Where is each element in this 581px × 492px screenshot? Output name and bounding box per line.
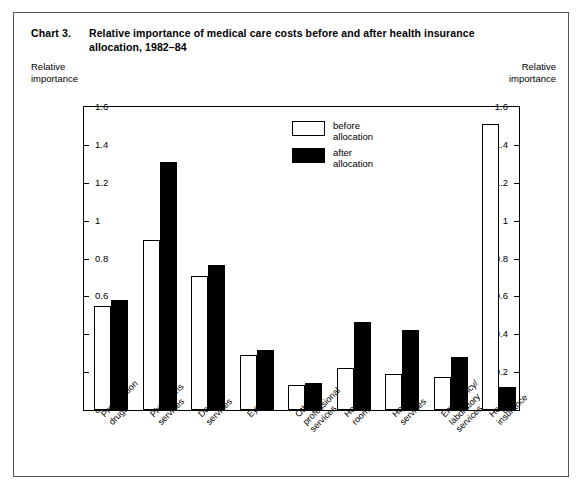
chart-legend: before allocationafter allocation bbox=[292, 121, 373, 175]
chart-panel: Chart 3.Relative importance of medical c… bbox=[13, 12, 569, 477]
bar-after-allocation bbox=[160, 162, 177, 410]
bar-before-allocation bbox=[482, 124, 499, 410]
page-title: Chart 3.Relative importance of medical c… bbox=[31, 26, 551, 54]
bar-after-allocation bbox=[208, 265, 225, 410]
bar-before-allocation bbox=[143, 240, 160, 410]
legend-label: after allocation bbox=[333, 148, 373, 169]
bar-group bbox=[191, 107, 225, 410]
bar-before-allocation bbox=[94, 306, 111, 410]
legend-item: before allocation bbox=[292, 121, 373, 142]
chart-title-text: Relative importance of medical care cost… bbox=[89, 26, 529, 54]
bar-group bbox=[94, 107, 128, 410]
bar-before-allocation bbox=[191, 276, 208, 410]
legend-swatch-before bbox=[292, 121, 325, 136]
left-axis-caption: Relative importance bbox=[31, 61, 78, 84]
legend-item: after allocation bbox=[292, 148, 373, 169]
bar-group bbox=[482, 107, 516, 410]
chart-number: Chart 3. bbox=[31, 26, 89, 40]
bar-group bbox=[240, 107, 274, 410]
legend-swatch-after bbox=[292, 148, 325, 163]
x-axis-category-labels: Prescription drugsPhysicians servicesDen… bbox=[83, 412, 520, 492]
legend-label: before allocation bbox=[333, 121, 373, 142]
bar-group bbox=[434, 107, 468, 410]
right-axis-caption: Relative importance bbox=[509, 61, 556, 84]
bar-group bbox=[143, 107, 177, 410]
bar-group bbox=[385, 107, 419, 410]
